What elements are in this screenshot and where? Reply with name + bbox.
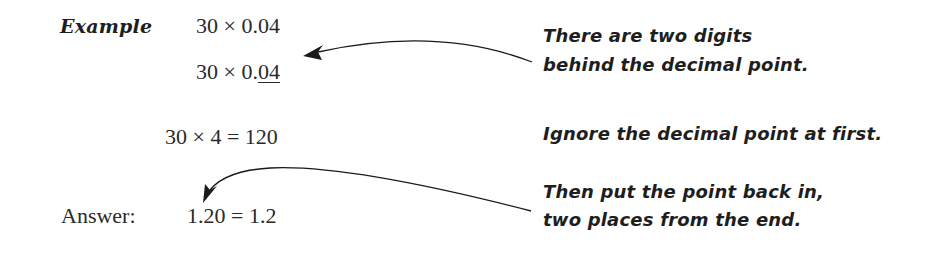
arrow-to-underlined-digits-icon xyxy=(303,41,532,62)
annotation-arrows xyxy=(0,0,941,255)
arrow-to-decimal-point-icon xyxy=(203,168,531,211)
